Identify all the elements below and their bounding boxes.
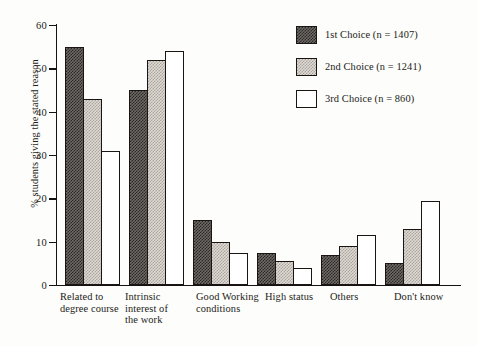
x-axis-label: Good Workingconditions bbox=[196, 291, 259, 314]
bar bbox=[211, 242, 230, 285]
legend-swatch bbox=[296, 58, 317, 76]
bar bbox=[403, 229, 422, 285]
y-axis-title: % students giving the stated reason bbox=[29, 24, 40, 244]
bar bbox=[65, 47, 84, 285]
bar bbox=[275, 261, 294, 285]
y-axis-tick-label: 30 bbox=[0, 150, 47, 161]
bar bbox=[339, 246, 358, 285]
bar-group bbox=[193, 25, 247, 285]
x-axis-label-line: the work bbox=[125, 314, 168, 326]
y-axis-tick-label: 0 bbox=[0, 280, 47, 291]
y-axis-tick bbox=[49, 198, 57, 199]
bar bbox=[129, 90, 148, 285]
y-axis-tick-label: 20 bbox=[0, 193, 47, 204]
bar-chart-figure: 0102030405060 % students giving the stat… bbox=[0, 0, 477, 346]
legend-label: 3rd Choice (n = 860) bbox=[325, 93, 414, 104]
bar bbox=[321, 255, 340, 285]
y-axis-tick-label: 50 bbox=[0, 63, 47, 74]
x-axis-label-line: interest of bbox=[125, 303, 168, 315]
x-axis-label-line: High status bbox=[265, 291, 313, 303]
bar-group bbox=[65, 25, 119, 285]
y-axis-tick-label: 60 bbox=[0, 20, 47, 31]
y-axis-tick bbox=[49, 155, 57, 156]
bar bbox=[165, 51, 184, 285]
y-axis-tick-label: 10 bbox=[0, 236, 47, 247]
bar bbox=[385, 263, 404, 285]
bar bbox=[293, 268, 312, 285]
x-axis-label: Others bbox=[330, 291, 358, 303]
bar bbox=[147, 60, 166, 285]
x-axis-label-line: degree course bbox=[60, 303, 119, 315]
legend-swatch bbox=[296, 26, 317, 44]
y-axis-tick bbox=[49, 112, 57, 113]
bar bbox=[357, 235, 376, 285]
legend: 1st Choice (n = 1407)2nd Choice (n = 124… bbox=[296, 22, 421, 118]
x-axis-label: Don't know bbox=[394, 291, 443, 303]
bar bbox=[257, 253, 276, 286]
y-axis-tick bbox=[49, 285, 57, 286]
x-axis-label-line: Good Working bbox=[196, 291, 259, 303]
y-axis-tick-label: 40 bbox=[0, 106, 47, 117]
x-axis-line bbox=[56, 285, 461, 286]
legend-label: 1st Choice (n = 1407) bbox=[325, 29, 418, 40]
legend-item: 2nd Choice (n = 1241) bbox=[296, 54, 421, 79]
bar bbox=[83, 99, 102, 285]
y-axis-tick bbox=[49, 68, 57, 69]
legend-label: 2nd Choice (n = 1241) bbox=[325, 61, 421, 72]
x-axis-label: Related todegree course bbox=[60, 291, 119, 314]
x-axis-label-line: Related to bbox=[60, 291, 119, 303]
x-axis-label-line: conditions bbox=[196, 303, 259, 315]
legend-item: 1st Choice (n = 1407) bbox=[296, 22, 421, 47]
x-axis-label: High status bbox=[265, 291, 313, 303]
x-axis-label-line: Don't know bbox=[394, 291, 443, 303]
bar bbox=[101, 151, 120, 285]
y-axis-tick bbox=[49, 25, 57, 26]
bar bbox=[421, 201, 440, 286]
bar bbox=[229, 253, 248, 286]
legend-swatch bbox=[296, 90, 317, 108]
bar-group bbox=[129, 25, 183, 285]
y-axis-tick bbox=[49, 242, 57, 243]
bar bbox=[193, 220, 212, 285]
x-axis-label-line: Others bbox=[330, 291, 358, 303]
x-axis-label-line: Intrinsic bbox=[125, 291, 168, 303]
x-axis-label: Intrinsicinterest ofthe work bbox=[125, 291, 168, 326]
legend-item: 3rd Choice (n = 860) bbox=[296, 86, 421, 111]
